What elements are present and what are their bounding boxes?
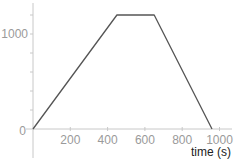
x-tick-label: 200 bbox=[60, 133, 80, 147]
x-tick-label: 800 bbox=[172, 133, 192, 147]
line-chart: 01000 2004006008001000 time (s) bbox=[0, 0, 235, 161]
x-tick-label: 400 bbox=[98, 133, 118, 147]
y-tick-label: 0 bbox=[19, 124, 26, 138]
y-axis: 01000 bbox=[1, 3, 33, 158]
x-axis-title: time (s) bbox=[191, 145, 231, 159]
x-tick-label: 600 bbox=[135, 133, 155, 147]
data-series bbox=[33, 15, 212, 129]
series-line bbox=[33, 15, 212, 129]
y-tick-label: 1000 bbox=[1, 27, 28, 41]
x-axis: 2004006008001000 bbox=[26, 127, 233, 147]
